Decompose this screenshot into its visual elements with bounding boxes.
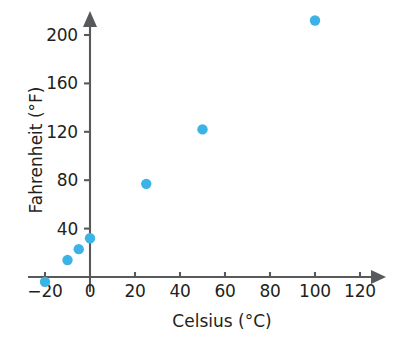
x-tick-label: 60 <box>214 281 235 301</box>
scatter-chart: −20020406080100120 4080120160200 Celsius… <box>0 0 396 346</box>
data-point <box>141 179 151 189</box>
data-point <box>310 15 320 25</box>
y-axis-title: Fahrenheit (°F) <box>26 87 46 214</box>
y-axis-ticks: 4080120160200 <box>46 25 91 239</box>
data-points-layer <box>40 15 320 287</box>
y-axis-arrow-icon <box>83 11 97 27</box>
x-tick-label: 0 <box>85 281 96 301</box>
x-tick-label: 120 <box>344 281 376 301</box>
data-point <box>40 277 50 287</box>
y-tick-label: 40 <box>57 219 78 239</box>
x-tick-label: 40 <box>169 281 190 301</box>
data-point <box>74 244 84 254</box>
y-tick-label: 200 <box>46 25 78 45</box>
x-tick-label: 20 <box>124 281 145 301</box>
x-tick-label: 100 <box>299 281 331 301</box>
data-point <box>62 255 72 265</box>
y-tick-label: 120 <box>46 122 78 142</box>
data-point <box>197 124 207 134</box>
data-point <box>85 233 95 243</box>
y-tick-label: 160 <box>46 73 78 93</box>
x-tick-label: 80 <box>259 281 280 301</box>
x-axis-title: Celsius (°C) <box>172 311 271 331</box>
chart-canvas: −20020406080100120 4080120160200 Celsius… <box>0 0 396 346</box>
y-tick-label: 80 <box>57 170 78 190</box>
